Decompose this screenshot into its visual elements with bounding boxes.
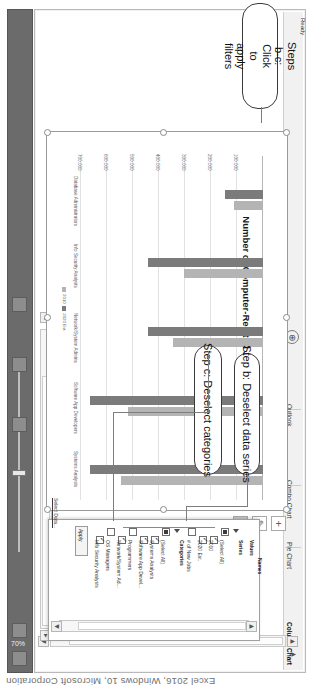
legend-swatch xyxy=(62,287,66,292)
chrome-button-2[interactable] xyxy=(12,623,27,638)
zoom-percent-label: 70% xyxy=(11,640,25,647)
value-axis-tick-label: 400,000 xyxy=(155,154,160,171)
filter-group-label: Categories xyxy=(179,540,185,566)
filter-panel-scrollbar-thumb[interactable] xyxy=(78,622,246,630)
gridline xyxy=(106,156,107,500)
value-axis-tick-label: 300,000 xyxy=(181,154,186,171)
chrome-button-4[interactable] xyxy=(12,357,27,372)
chart-filters-panel[interactable]: ◀ ▶ ValuesSeries(Select All)20102020 Est… xyxy=(48,519,260,641)
chart-bar[interactable] xyxy=(148,258,263,267)
leader-line-step-c-v xyxy=(208,351,209,413)
filter-item-label: 2020 Est. xyxy=(197,540,203,561)
chart-legend: 2010 2020 Est. xyxy=(62,287,67,332)
chart-bar[interactable] xyxy=(225,190,263,199)
apply-button[interactable]: Apply xyxy=(75,526,88,556)
filter-item-label: OS Managers xyxy=(105,540,111,571)
filter-item-label: (Select All) xyxy=(160,540,166,564)
filter-scroll-right-arrow[interactable]: ▶ xyxy=(51,621,62,632)
window-chrome-strip: 70% xyxy=(7,9,33,673)
value-axis-tick-label: 700,000 xyxy=(77,154,82,171)
filter-item-label: (Select All) xyxy=(219,540,225,564)
callout-step-bc: Steps b-c: Click to apply filters xyxy=(242,3,278,109)
filter-category-item-6[interactable]: Info Security Analysts xyxy=(92,528,104,614)
leader-line-step-bc xyxy=(261,107,262,123)
chart-resize-handle-mr[interactable] xyxy=(44,314,51,321)
rotated-screenshot-canvas: Excel 2016, Windows 10, Microsoft Corpor… xyxy=(0,0,314,691)
expand-triangle-icon[interactable] xyxy=(174,529,180,533)
filter-item-label: Systems Analysts xyxy=(149,540,155,579)
value-axis-tick-label: 100,000 xyxy=(233,154,238,171)
chart-resize-handle-tc[interactable] xyxy=(160,506,167,513)
status-bar-text: Ready xyxy=(300,18,306,35)
leader-line-step-b-v xyxy=(247,473,248,507)
filter-group-label: Names xyxy=(257,558,263,574)
gridline xyxy=(80,156,81,500)
chart-bar[interactable] xyxy=(184,269,263,278)
chrome-button-1[interactable] xyxy=(12,651,27,666)
callout-step-b: Step b: Deselect data series xyxy=(234,353,260,475)
filter-item-label: Info Security Analysts xyxy=(94,540,100,588)
filter-group-names: Names xyxy=(247,546,259,632)
chart-elements-plus-icon[interactable]: + xyxy=(271,516,286,531)
chart-resize-handle-bl[interactable] xyxy=(283,129,290,136)
legend-swatch xyxy=(62,306,66,311)
filter-checkbox[interactable] xyxy=(129,528,137,536)
value-axis-tick-label: 200,000 xyxy=(207,154,212,171)
filter-checkbox[interactable] xyxy=(107,528,115,536)
category-axis-label: Systems Analysts xyxy=(73,451,78,487)
filter-checkbox[interactable] xyxy=(221,528,229,536)
worksheet-area[interactable]: ◀ ▶ Column Chart Pie Chart Combo Chart O… xyxy=(36,11,304,671)
leader-line-step-b-up xyxy=(186,506,187,521)
filter-underline-connector xyxy=(123,527,215,528)
callout-step-bc-text: Steps b-c: Click to apply filters xyxy=(222,39,298,73)
filter-panel-scrollbar[interactable] xyxy=(59,620,249,632)
filter-series-item-2[interactable]: 2020 Est. xyxy=(195,528,207,614)
expand-triangle-icon[interactable] xyxy=(233,529,239,533)
chart-resize-handle-tl[interactable] xyxy=(283,506,290,513)
sheet-tab-label: Pie Chart xyxy=(286,542,293,569)
gridline xyxy=(132,156,133,500)
category-axis-label: Network/System Admins xyxy=(73,313,78,363)
leader-line-step-c-h xyxy=(113,412,209,413)
chart-resize-handle-bc[interactable] xyxy=(160,129,167,136)
select-data-link[interactable]: Select Data... xyxy=(53,498,59,528)
chart-bar[interactable] xyxy=(148,327,263,336)
excel-window: ◀ ▶ Column Chart Pie Chart Combo Chart O… xyxy=(34,9,306,673)
screenshot-caption: Excel 2016, Windows 10, Microsoft Corpor… xyxy=(6,676,215,687)
value-axis-tick-label: 600,000 xyxy=(103,154,108,171)
filter-item-label: Programmers xyxy=(127,540,133,570)
filter-checkbox[interactable] xyxy=(188,528,196,536)
chrome-button-3[interactable] xyxy=(12,417,27,432)
filter-checkbox[interactable] xyxy=(162,528,170,536)
zoom-slider-track[interactable] xyxy=(19,372,21,552)
filter-item-label: Software App Devel... xyxy=(138,540,144,588)
category-axis-label: Database Administrators xyxy=(73,176,78,226)
filter-series-item-3[interactable]: # of New Jobs xyxy=(184,528,196,614)
filter-item-label: # of New Jobs xyxy=(186,540,192,572)
chart-resize-handle-ml[interactable] xyxy=(283,314,290,321)
chart-bar[interactable] xyxy=(234,201,263,210)
category-axis-label: Info Security Analysts xyxy=(73,244,78,288)
value-axis-tick-label: 500,000 xyxy=(129,154,134,171)
sheet-tab-outlook[interactable]: Outlook xyxy=(286,356,300,404)
filter-group-series: Series xyxy=(228,528,240,614)
callout-step-b-text: Step b: Deselect data series xyxy=(241,345,253,483)
legend-entry: 2020 Est. xyxy=(62,306,67,332)
apply-button-label: Apply xyxy=(78,529,84,542)
filter-category-item-2[interactable]: Software App Devel... xyxy=(136,528,148,614)
chrome-button-5[interactable] xyxy=(12,297,27,312)
category-axis-label: Software App Developers xyxy=(73,382,78,434)
chart-resize-handle-br[interactable] xyxy=(44,129,51,136)
filter-item-label: Network/System Ad... xyxy=(116,540,122,588)
filter-group-categories: Categories xyxy=(169,528,181,614)
leader-line-step-c-up xyxy=(113,412,114,521)
scroll-left-arrow[interactable]: ◀ xyxy=(287,636,298,647)
filter-category-item-4[interactable]: Network/System Ad... xyxy=(114,528,126,614)
leader-line-step-b-h xyxy=(186,506,248,507)
chart-resize-handle-tr[interactable] xyxy=(44,506,51,513)
zoom-slider-knob[interactable] xyxy=(12,470,26,476)
filter-group-label: Series xyxy=(238,540,244,555)
legend-entry: 2010 xyxy=(62,287,67,304)
